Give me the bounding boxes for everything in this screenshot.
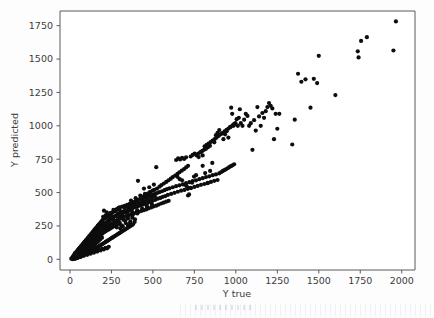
data-point	[134, 196, 138, 200]
y-tick-label: 1000	[29, 120, 53, 131]
data-point	[206, 181, 210, 185]
data-point	[264, 109, 268, 113]
data-point	[308, 106, 312, 110]
data-point	[333, 93, 337, 97]
data-point	[145, 198, 149, 202]
data-point	[212, 140, 216, 144]
data-point	[230, 112, 234, 116]
data-point	[242, 118, 246, 122]
data-point	[274, 112, 278, 116]
data-point	[152, 188, 156, 192]
data-point	[147, 190, 151, 194]
y-tick-label: 1750	[29, 20, 53, 31]
data-point	[225, 129, 229, 133]
data-point	[133, 220, 137, 224]
data-point	[249, 121, 253, 125]
data-point	[217, 128, 221, 132]
data-point	[270, 106, 274, 110]
data-point	[186, 164, 190, 168]
data-point	[232, 162, 236, 166]
data-point	[238, 107, 242, 111]
data-point	[150, 196, 154, 200]
data-point	[356, 49, 360, 53]
y-tick-label: 1500	[29, 53, 53, 64]
data-point	[105, 210, 109, 214]
data-point	[194, 173, 198, 177]
data-point	[391, 48, 395, 52]
data-point	[315, 81, 319, 85]
y-axis-title: Y predicted	[9, 113, 20, 168]
data-point	[188, 186, 192, 190]
data-point	[272, 137, 276, 141]
data-point	[180, 178, 184, 182]
data-point	[152, 182, 156, 186]
x-tick-label: 500	[144, 275, 162, 286]
x-tick-label: 1750	[348, 275, 372, 286]
data-point	[290, 142, 294, 146]
x-axis-title: Y true	[222, 288, 251, 299]
data-point	[184, 155, 188, 159]
data-point	[100, 236, 104, 240]
data-point	[237, 116, 241, 120]
x-tick-label: 0	[67, 275, 73, 286]
x-axis-ticks: 025050075010001250150017502000	[67, 270, 414, 286]
x-tick-label: 1500	[307, 275, 331, 286]
data-point	[296, 72, 300, 76]
data-point	[201, 153, 205, 157]
data-point	[144, 203, 148, 207]
data-point	[245, 114, 249, 118]
data-point	[203, 171, 207, 175]
data-point	[215, 178, 219, 182]
data-point	[167, 199, 171, 203]
data-point	[127, 209, 131, 213]
data-point	[365, 35, 369, 39]
y-axis-ticks: 02505007501000125015001750	[29, 20, 60, 265]
data-point	[250, 148, 254, 152]
data-point	[254, 129, 258, 133]
data-point	[138, 193, 142, 197]
data-point	[208, 169, 212, 173]
data-point	[140, 206, 144, 210]
data-point	[201, 164, 205, 168]
y-tick-label: 250	[35, 220, 53, 231]
data-point	[118, 205, 122, 209]
data-point	[293, 118, 297, 122]
data-point	[255, 105, 259, 109]
data-point	[122, 210, 126, 214]
data-point	[357, 55, 361, 59]
data-point	[317, 54, 321, 58]
x-tick-label: 250	[102, 275, 120, 286]
data-point	[123, 218, 127, 222]
data-point	[275, 127, 279, 131]
data-point	[312, 77, 316, 81]
data-point	[110, 215, 114, 219]
plot-background	[60, 11, 415, 270]
data-point	[277, 112, 281, 116]
y-tick-label: 750	[35, 154, 53, 165]
data-point	[111, 208, 115, 212]
x-tick-label: 1000	[224, 275, 248, 286]
y-tick-label: 1250	[29, 87, 53, 98]
data-point	[149, 201, 153, 205]
data-point	[121, 224, 125, 228]
data-point	[116, 221, 120, 225]
data-point	[143, 192, 147, 196]
data-point	[187, 192, 191, 196]
data-point	[147, 185, 151, 189]
data-point	[226, 135, 230, 139]
data-point	[190, 181, 194, 185]
data-point	[262, 116, 266, 120]
x-tick-label: 750	[185, 275, 203, 286]
data-point	[131, 204, 135, 208]
data-point	[240, 124, 244, 128]
data-point	[154, 165, 158, 169]
data-point	[136, 179, 140, 183]
x-tick-label: 1250	[265, 275, 289, 286]
data-point	[139, 197, 143, 201]
data-point	[394, 19, 398, 23]
y-tick-label: 0	[47, 254, 53, 265]
data-point	[130, 216, 134, 220]
data-point	[259, 124, 263, 128]
data-point	[359, 39, 363, 43]
y-tick-label: 500	[35, 187, 53, 198]
